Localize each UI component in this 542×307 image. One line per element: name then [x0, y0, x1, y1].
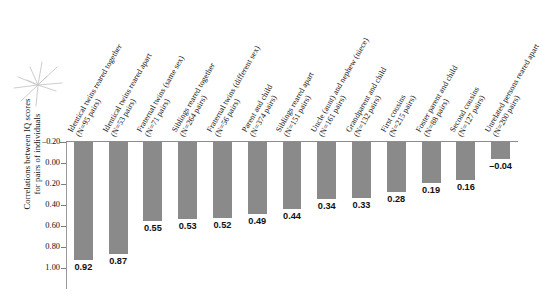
bar[interactable] [387, 142, 406, 192]
bar-value-label: 0.44 [283, 212, 301, 221]
y-tick-label-5: 0.80 [45, 243, 60, 251]
category-label-n: (N=200 pairs) [491, 47, 542, 139]
y-tick-label-1: 0.00 [45, 159, 60, 167]
bar-value-label: 0.33 [353, 201, 371, 210]
bar-slot: 0.53 [178, 142, 197, 268]
bar-slot: 0.52 [213, 142, 232, 268]
y-tick-label-2: 0.20 [45, 180, 60, 188]
x-axis-category-labels: Identical twins reared together(N=95 pai… [0, 0, 542, 142]
bar[interactable] [352, 142, 371, 198]
bar-slot: –0.04 [491, 142, 510, 268]
bar[interactable] [491, 142, 510, 159]
bar-value-label: 0.16 [457, 183, 475, 192]
y-tick-mark-3 [61, 205, 66, 206]
y-tick-mark-5 [61, 247, 66, 248]
bar[interactable] [178, 142, 197, 219]
bar[interactable] [248, 142, 267, 214]
bar[interactable] [109, 142, 128, 254]
bar-slot: 0.55 [143, 142, 162, 268]
bar-slot: 0.33 [352, 142, 371, 268]
category-label-12: Unrelated persons reared apart(N=200 pai… [483, 42, 542, 138]
bar-value-label: 0.19 [422, 186, 440, 195]
bar[interactable] [456, 142, 475, 180]
bar[interactable] [283, 142, 302, 209]
bar-slot: 0.87 [109, 142, 128, 268]
y-tick-mark-1 [61, 163, 66, 164]
bar-slot: 0.44 [283, 142, 302, 268]
category-label-name: Unrelated persons reared apart [483, 42, 541, 134]
bar-value-label: 0.53 [179, 222, 197, 231]
iq-correlation-bar-chart: Correlations between IQ scores for pairs… [0, 0, 542, 307]
bar-slot: 0.19 [422, 142, 441, 268]
bar-value-label: 0.87 [109, 257, 127, 266]
bar[interactable] [213, 142, 232, 218]
y-tick-label-6: 1.00 [45, 264, 60, 272]
y-tick-mark-4 [61, 226, 66, 227]
y-tick-mark-6 [61, 268, 66, 269]
category-label-9: First cousins(N=215 pairs) [379, 89, 418, 138]
bar[interactable] [422, 142, 441, 183]
bar-value-label: 0.49 [248, 217, 266, 226]
bar-value-label: 0.92 [74, 263, 92, 272]
bar-slot: 0.34 [317, 142, 336, 268]
y-tick-label-3: 0.40 [45, 201, 60, 209]
bar-slot: 0.28 [387, 142, 406, 268]
bar-value-label: 0.55 [144, 224, 162, 233]
y-axis-tick-labels: –0.200.000.200.400.600.801.00 [24, 137, 60, 273]
y-tick-mark-2 [61, 184, 66, 185]
bar-slot: 0.92 [74, 142, 93, 268]
plot-area: 0.920.870.550.530.520.490.440.340.330.28… [66, 142, 518, 268]
bar[interactable] [143, 142, 162, 221]
bar-value-label: 0.28 [387, 195, 405, 204]
bar-value-label: 0.52 [214, 221, 232, 230]
bar-slot: 0.49 [248, 142, 267, 268]
bar-series: 0.920.870.550.530.520.490.440.340.330.28… [66, 142, 518, 268]
y-tick-label-4: 0.60 [45, 222, 60, 230]
bar[interactable] [317, 142, 336, 199]
y-tick-mark-0 [60, 142, 66, 143]
bar-value-label: –0.04 [489, 162, 512, 171]
bar[interactable] [74, 142, 93, 260]
bar-value-label: 0.34 [318, 202, 336, 211]
bar-slot: 0.16 [456, 142, 475, 268]
